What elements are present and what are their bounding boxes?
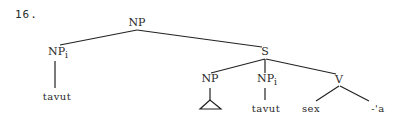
- edge-root-to-s: [137, 30, 262, 47]
- node-v: V: [335, 74, 343, 86]
- node-s: S: [261, 46, 269, 58]
- leaf-tavut-right: tavut: [252, 103, 281, 115]
- leaf-a-suffix: -'a: [371, 103, 385, 115]
- node-np-i-under-s: NPi: [257, 73, 277, 85]
- edge-s-to-v: [266, 59, 336, 74]
- node-root-np: NP: [128, 17, 145, 29]
- triangle-icon: [200, 100, 221, 109]
- node-np-under-s: NP: [201, 73, 218, 85]
- edge-root-to-np-i: [60, 30, 137, 45]
- edge-s-to-np: [211, 59, 265, 73]
- edge-v-to-a: [340, 86, 369, 101]
- edge-v-to-sex: [316, 86, 339, 101]
- leaf-sex: sex: [302, 103, 320, 115]
- leaf-tavut-left: tavut: [43, 91, 72, 103]
- node-np-i-left: NPi: [48, 46, 68, 58]
